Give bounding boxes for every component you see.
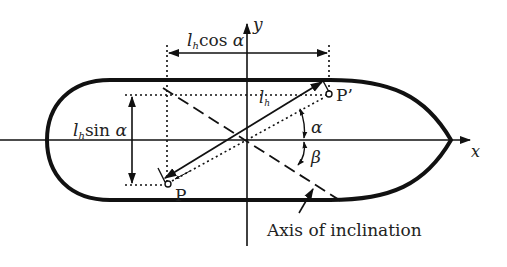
beta-label: β [310, 147, 321, 167]
alpha-arc [300, 109, 305, 138]
point-p-prime-label: P’ [336, 85, 353, 105]
lever-tick-p [158, 168, 165, 182]
x-axis-label: x [471, 142, 480, 161]
alpha-label: α [311, 117, 323, 137]
axis-of-inclination-label: Axis of inclination [266, 220, 422, 240]
beta-arc [298, 142, 304, 165]
point-p-label: P [175, 185, 186, 205]
sin-label: lhsin α [73, 120, 127, 141]
cos-label: lhcos α [187, 30, 245, 51]
point-p-marker [165, 181, 171, 187]
diagram-canvas: lhcos α y lhsin α lh P P’ α β x Axis of … [0, 0, 507, 267]
dotted-arrow-p [175, 171, 190, 179]
lh-label: lh [259, 88, 270, 108]
y-axis-label: y [252, 14, 263, 34]
axis-of-inclination-line [163, 88, 344, 203]
diagram-svg: lhcos α y lhsin α lh P P’ α β x Axis of … [0, 0, 507, 267]
point-p-prime-marker [326, 91, 332, 97]
